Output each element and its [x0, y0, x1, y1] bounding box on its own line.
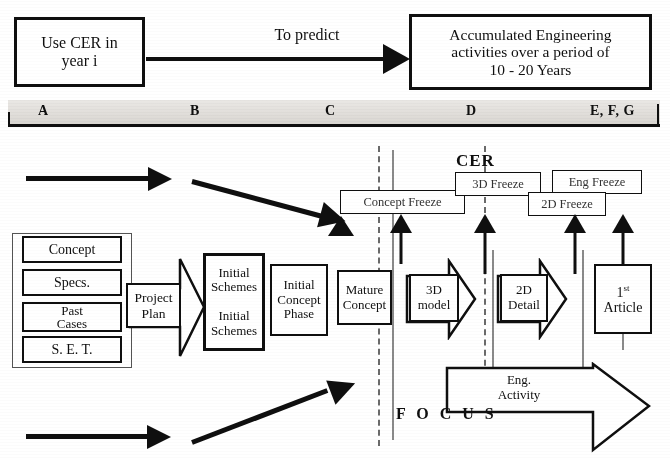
accumulated-line2: activities over a period of	[451, 43, 609, 60]
project-plan-line2: Plan	[141, 306, 165, 321]
phase-letter-a: A	[38, 103, 49, 119]
model-3d-box: 3D model	[409, 274, 459, 322]
to-predict-arrow-head-icon	[383, 44, 410, 74]
up-arrow-eng-freeze	[612, 214, 634, 266]
phase-letter-c: C	[325, 103, 336, 119]
phase-letter-d: D	[466, 103, 477, 119]
phase-letter-b: B	[190, 103, 200, 119]
input-box-set: S. E. T.	[22, 336, 122, 363]
initial-concept-line2: Concept	[277, 292, 320, 307]
up-arrow-3d-freeze	[474, 214, 496, 274]
top-diagonal-arrow-line	[191, 179, 328, 220]
up-arrow-concept-freeze	[390, 214, 412, 264]
to-predict-arrow-line	[146, 57, 398, 61]
first-article-box: 1st Article	[594, 264, 652, 334]
input-box-concept: Concept	[22, 236, 122, 263]
use-cer-line2: year i	[62, 52, 98, 69]
initial-schemes-line4: Schemes	[211, 323, 257, 338]
initial-concept-phase-box: Initial Concept Phase	[270, 264, 328, 336]
first-article-superscript: st	[623, 283, 629, 293]
project-plan-line1: Project	[134, 290, 172, 305]
detail-2d-line2: Detail	[508, 297, 540, 312]
mature-concept-box: Mature Concept	[337, 270, 392, 325]
bottom-diagonal-arrow-line	[191, 388, 328, 445]
accumulated-engineering-box: Accumulated Engineering activities over …	[409, 14, 652, 90]
diagram-canvas: Use CER in year i To predict Accumulated…	[0, 0, 670, 458]
initial-schemes-line1: Initial	[218, 265, 249, 280]
mature-concept-line2: Concept	[343, 297, 386, 312]
eng-activity-label-group: Eng. Activity	[449, 368, 589, 408]
detail-2d-box: 2D Detail	[500, 274, 548, 322]
phase-rule-left-tick	[8, 112, 10, 127]
concept-freeze-box: Concept Freeze	[340, 190, 465, 214]
freeze-3d-label: 3D Freeze	[470, 177, 526, 191]
first-article-line2: Article	[604, 300, 643, 315]
detail-2d-line1: 2D	[516, 282, 532, 297]
bottom-left-horizontal-arrow-line	[26, 434, 150, 439]
initial-schemes-line3: Initial	[218, 308, 249, 323]
input-box-specs: Specs.	[22, 269, 122, 296]
eng-activity-line2: Activity	[498, 387, 541, 402]
mature-concept-line1: Mature	[346, 282, 384, 297]
input-label-specs: Specs.	[52, 275, 92, 291]
top-left-horizontal-arrow-line	[26, 176, 151, 181]
accumulated-line3: 10 - 20 Years	[490, 61, 572, 78]
cer-heading: CER	[456, 151, 495, 171]
bottom-diagonal-arrow-head-icon	[326, 371, 360, 405]
input-label-set: S. E. T.	[49, 342, 94, 358]
freeze-2d-box: 2D Freeze	[528, 192, 606, 216]
input-label-concept: Concept	[47, 242, 98, 258]
eng-freeze-box: Eng Freeze	[552, 170, 642, 194]
use-cer-box: Use CER in year i	[14, 17, 145, 87]
project-plan-box: Project Plan	[126, 283, 181, 328]
input-box-past-cases: Past Cases	[22, 302, 122, 332]
phase-baseline-rule	[8, 124, 660, 127]
to-predict-label: To predict	[232, 26, 382, 44]
phase-rule-right-tick	[657, 104, 659, 126]
bottom-left-horizontal-arrow-head-icon	[147, 425, 171, 449]
eng-freeze-label: Eng Freeze	[567, 175, 628, 189]
freeze-2d-label: 2D Freeze	[539, 197, 595, 211]
input-label-cases: Cases	[57, 316, 87, 331]
initial-concept-line1: Initial	[283, 277, 314, 292]
phase-letter-efg: E, F, G	[590, 103, 635, 119]
initial-schemes-box: Initial Schemes Initial Schemes	[203, 253, 265, 351]
accumulated-line1: Accumulated Engineering	[449, 26, 611, 43]
concept-freeze-label: Concept Freeze	[361, 195, 443, 209]
eng-activity-line1: Eng.	[507, 372, 531, 387]
focus-heading: F O C U S	[396, 405, 497, 423]
top-left-horizontal-arrow-head-icon	[148, 167, 172, 191]
model-3d-line2: model	[418, 297, 451, 312]
initial-concept-line3: Phase	[284, 306, 314, 321]
use-cer-line1: Use CER in	[41, 34, 117, 51]
model-3d-line1: 3D	[426, 282, 442, 297]
initial-schemes-line2: Schemes	[211, 279, 257, 294]
